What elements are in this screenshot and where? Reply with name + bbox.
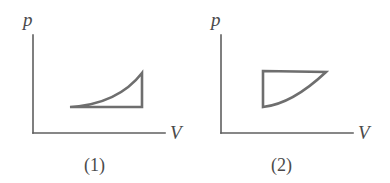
process-cycle-1 [70, 73, 142, 107]
pv-diagram-1-svg: p V (1) [0, 0, 195, 183]
panel-caption-2: (2) [271, 155, 292, 176]
panel-caption-1: (1) [84, 155, 105, 176]
pv-diagram-panel-1: p V (1) [0, 0, 195, 183]
y-axis-label-2: p [209, 9, 221, 30]
figure-root: p V (1) p V (2) [0, 0, 390, 183]
pv-diagram-2-svg: p V (2) [195, 0, 390, 183]
x-axis-label-1: V [170, 122, 184, 143]
pv-diagram-panel-2: p V (2) [195, 0, 390, 183]
process-cycle-2 [263, 71, 326, 107]
y-axis-label-1: p [21, 9, 33, 30]
x-axis-label-2: V [358, 122, 372, 143]
